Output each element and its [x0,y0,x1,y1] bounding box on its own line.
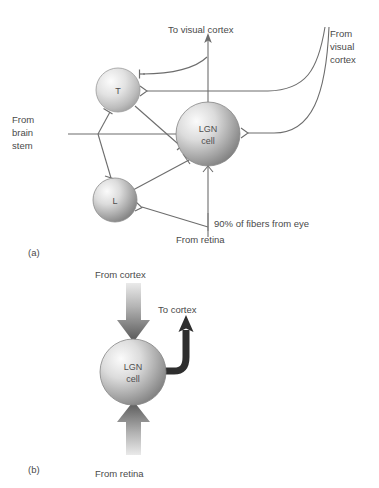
synapse-arrow-LGN-right [241,128,248,138]
node-LGN-b: LGN cell [100,339,166,405]
panel-b-label: (b) [28,464,40,475]
from-cortex-arrow [117,283,150,342]
from-retina-arrow-shape [117,401,150,455]
label-from-retina-a: From retina [176,234,225,245]
label-to-cortex: To cortex [158,304,197,315]
from-visual-cortex-to-T [140,27,325,96]
node-T: T [96,68,140,112]
retina-to-L [135,202,208,227]
label-from-visual-cortex-line1: From [330,28,352,39]
label-from-retina-b: From retina [95,468,144,479]
to-cortex-arrowhead [179,315,194,332]
label-from-brain-stem-line3: stem [12,140,33,151]
lgn-circuit-figure: T L LGN cell To visual cortex From visua… [0,0,379,488]
panel-a: T L LGN cell To visual cortex From visua… [12,24,356,258]
label-to-visual-cortex: To visual cortex [168,24,234,35]
node-T-label: T [115,86,121,96]
from-cortex-arrow-shape [117,283,150,342]
from-visual-cortex-to-LGN [241,27,329,138]
node-LGN-a-label-line2: cell [201,136,215,146]
panel-a-label: (a) [28,247,40,258]
node-LGN-a: LGN cell [176,102,240,166]
label-from-brain-stem-line1: From [12,114,34,125]
node-L-label: L [112,196,117,206]
label-from-cortex: From cortex [95,269,146,280]
label-from-brain-stem-line2: brain [12,127,33,138]
from-retina-arrow [117,401,150,455]
label-from-visual-cortex-line2: visual [330,41,354,52]
L-to-LGN [133,154,190,190]
node-LGN-a-label-line1: LGN [199,124,218,134]
label-percent-fibers: 90% of fibers from eye [214,218,309,229]
label-from-visual-cortex-line3: cortex [330,54,356,65]
node-L: L [93,178,137,222]
synapse-arrow-T-side [140,86,147,96]
node-LGN-b-label-line1: LGN [124,362,143,372]
node-LGN-b-label-line2: cell [126,374,140,384]
panel-b: LGN cell From cortex To cortex From reti… [28,269,197,479]
axon-collateral-to-T [140,57,208,79]
